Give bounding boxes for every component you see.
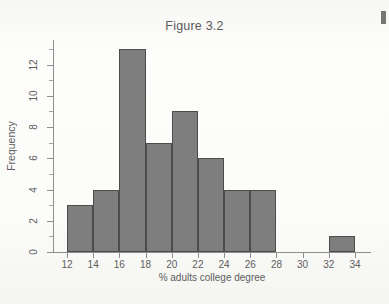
histogram-bar-24-26 xyxy=(224,190,250,252)
x-tick-label-30: 30 xyxy=(292,259,314,270)
y-axis-title: Frequency xyxy=(4,146,18,147)
y-minor-tick-3 xyxy=(49,205,53,206)
figure-page: Figure 3.2 Frequency 024681012 121416182… xyxy=(0,0,389,304)
y-tick-label-text: 2 xyxy=(28,218,39,224)
y-tick-6 xyxy=(47,158,53,159)
chart-title: Figure 3.2 xyxy=(0,19,389,33)
histogram-bar-12-14 xyxy=(67,205,93,252)
x-tick-label-16: 16 xyxy=(108,259,130,270)
y-minor-tick-1 xyxy=(49,236,53,237)
x-tick-label-34: 34 xyxy=(344,259,366,270)
histogram-bar-20-22 xyxy=(172,111,198,252)
y-tick-label-text: 4 xyxy=(28,187,39,193)
x-tick-26 xyxy=(250,253,251,258)
y-tick-12 xyxy=(47,65,53,66)
y-tick-label-6: 6 xyxy=(26,151,40,165)
x-tick-label-14: 14 xyxy=(82,259,104,270)
x-tick-label-12: 12 xyxy=(56,259,78,270)
y-tick-label-8: 8 xyxy=(26,120,40,134)
x-tick-label-26: 26 xyxy=(239,259,261,270)
histogram-bar-14-16 xyxy=(93,190,119,252)
y-tick-label-0: 0 xyxy=(26,245,40,259)
y-minor-tick-7 xyxy=(49,143,53,144)
x-tick-label-28: 28 xyxy=(265,259,287,270)
x-axis-line xyxy=(53,252,371,253)
x-tick-24 xyxy=(224,253,225,258)
y-tick-2 xyxy=(47,221,53,222)
x-tick-label-18: 18 xyxy=(135,259,157,270)
y-tick-label-text: 12 xyxy=(28,59,39,70)
y-minor-tick-11 xyxy=(49,80,53,81)
y-tick-label-text: 6 xyxy=(28,155,39,161)
x-tick-12 xyxy=(67,253,68,258)
y-tick-4 xyxy=(47,190,53,191)
y-tick-8 xyxy=(47,127,53,128)
y-tick-0 xyxy=(47,252,53,253)
y-tick-label-4: 4 xyxy=(26,183,40,197)
x-tick-20 xyxy=(172,253,173,258)
x-tick-32 xyxy=(329,253,330,258)
y-minor-tick-9 xyxy=(49,111,53,112)
histogram-bar-26-28 xyxy=(250,190,276,252)
y-minor-tick-13 xyxy=(49,49,53,50)
x-tick-label-22: 22 xyxy=(187,259,209,270)
x-axis-title: % adults college degree xyxy=(53,272,371,283)
x-tick-18 xyxy=(146,253,147,258)
y-tick-label-12: 12 xyxy=(26,58,40,72)
y-tick-label-text: 8 xyxy=(28,124,39,130)
x-tick-34 xyxy=(355,253,356,258)
histogram-bar-18-20 xyxy=(146,143,172,252)
x-tick-16 xyxy=(119,253,120,258)
histogram-bar-16-18 xyxy=(119,49,145,252)
y-axis-title-label: Frequency xyxy=(5,121,17,171)
y-minor-tick-5 xyxy=(49,174,53,175)
y-tick-label-10: 10 xyxy=(26,89,40,103)
x-tick-14 xyxy=(93,253,94,258)
y-tick-label-text: 0 xyxy=(28,249,39,255)
histogram-bar-32-34 xyxy=(329,236,355,252)
x-tick-28 xyxy=(276,253,277,258)
y-tick-10 xyxy=(47,96,53,97)
x-tick-label-20: 20 xyxy=(161,259,183,270)
y-tick-label-2: 2 xyxy=(26,214,40,228)
y-axis-line xyxy=(53,40,54,253)
x-tick-label-32: 32 xyxy=(318,259,340,270)
x-tick-30 xyxy=(303,253,304,258)
x-tick-label-24: 24 xyxy=(213,259,235,270)
histogram-bar-22-24 xyxy=(198,158,224,252)
x-tick-22 xyxy=(198,253,199,258)
y-tick-label-text: 10 xyxy=(28,90,39,101)
